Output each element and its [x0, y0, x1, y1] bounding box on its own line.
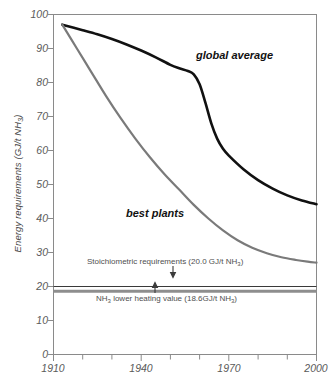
plot-area — [0, 0, 335, 388]
series-line-global-average — [62, 25, 316, 205]
stoich-label-pre: Stoichiometric requirements (20.0 GJ/t N… — [87, 257, 237, 266]
annotation-best-plants: best plants — [126, 207, 184, 219]
series-line-best-plants — [62, 25, 316, 263]
lhv-label-pre: NH — [96, 294, 108, 303]
plot-frame — [54, 15, 317, 355]
energy-requirements-chart: Energy requirements (GJ/t NH3) 100 90 80… — [0, 0, 335, 388]
nh3-lower-heating-value-label: NH3 lower heating value (18.6GJ/t NH3) — [96, 294, 237, 303]
annotation-global-average: global average — [196, 49, 273, 61]
lhv-label-post: ) — [234, 294, 237, 303]
stoichiometric-requirements-label: Stoichiometric requirements (20.0 GJ/t N… — [87, 257, 243, 266]
lhv-label-sub1: 3 — [108, 298, 111, 304]
stoichiometric-arrow-icon — [171, 266, 176, 278]
stoich-label-post: ) — [241, 257, 244, 266]
lhv-label-mid: lower heating value (18.6GJ/t NH — [111, 294, 231, 303]
x-tick-marks — [54, 355, 317, 362]
lhv-label-sub2: 3 — [231, 298, 234, 304]
y-tick-marks — [47, 15, 54, 355]
stoich-label-sub: 3 — [237, 261, 240, 267]
